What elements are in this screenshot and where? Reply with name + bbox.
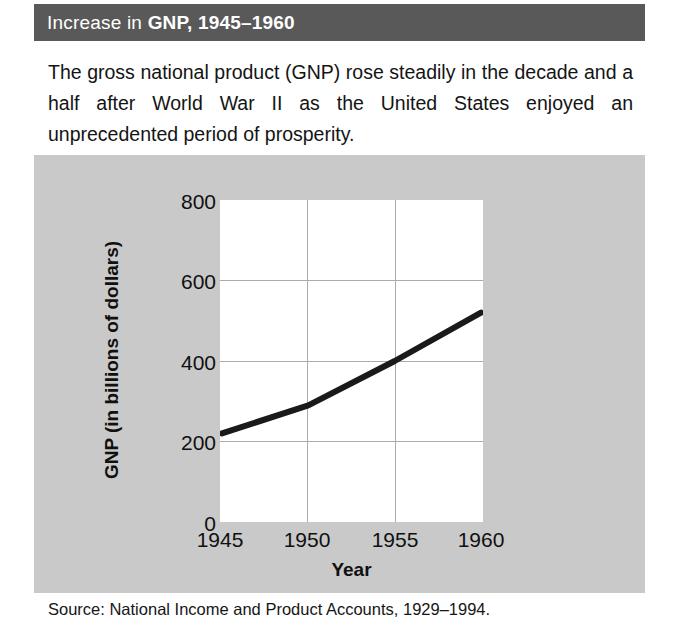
gnp-figure-card: Increase in GNP, 1945–1960 The gross nat… [34, 4, 645, 628]
y-tick-600: 600 [146, 271, 216, 292]
x-axis-tick-labels: 1945 1950 1955 1960 [220, 529, 483, 555]
horizontal-gridlines [220, 281, 483, 442]
figure-caption-box: The gross national product (GNP) rose st… [34, 41, 645, 155]
x-tick-1960: 1960 [444, 529, 518, 550]
y-tick-800: 800 [146, 191, 216, 212]
y-tick-200: 200 [146, 432, 216, 453]
figure-source-box: Source: National Income and Product Acco… [34, 593, 645, 628]
figure-title-emphasis: GNP, 1945–1960 [148, 12, 295, 33]
figure-title: Increase in GNP, 1945–1960 [47, 12, 295, 34]
chart-panel: GNP (in billions of dollars) 800 600 400… [34, 155, 645, 593]
y-tick-400: 400 [146, 352, 216, 373]
figure-caption: The gross national product (GNP) rose st… [48, 57, 633, 150]
figure-source: Source: National Income and Product Acco… [48, 600, 490, 619]
x-axis-title: Year [220, 559, 483, 581]
gnp-data-line [222, 313, 481, 434]
y-axis-tick-labels: 800 600 400 200 0 [142, 200, 216, 522]
x-tick-1945: 1945 [183, 529, 257, 550]
y-axis-title: GNP (in billions of dollars) [101, 220, 123, 500]
gnp-line-chart-svg [220, 200, 483, 522]
x-tick-1955: 1955 [358, 529, 432, 550]
x-tick-1950: 1950 [270, 529, 344, 550]
figure-title-bar: Increase in GNP, 1945–1960 [34, 4, 645, 41]
figure-title-lead: Increase in [47, 12, 142, 33]
plot-area [220, 200, 483, 522]
